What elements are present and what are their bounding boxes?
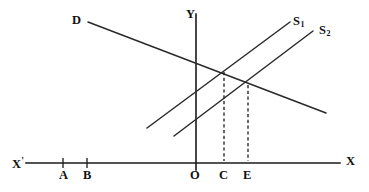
x-axis-label: X: [346, 155, 355, 168]
supply-curve-s2: [174, 31, 313, 136]
point-label-c: C: [219, 169, 228, 182]
point-label-b: B: [83, 169, 92, 182]
x-prime-mark: ': [21, 155, 24, 166]
demand-curve-d: [88, 22, 326, 113]
x-axis-negative-label: X': [12, 155, 24, 171]
supply-demand-diagram: D S1 S2 Y X X' A B O C E: [0, 0, 369, 192]
diagram-canvas: [0, 0, 369, 192]
demand-curve-label: D: [72, 14, 81, 27]
supply-curve-s1-label: S1: [293, 15, 304, 28]
supply-curve-s1: [147, 22, 290, 128]
point-label-a: A: [59, 169, 68, 182]
x-prime-base: X: [12, 157, 21, 171]
supply-s1-subscript: 1: [300, 20, 304, 29]
supply-curve-s2-label: S2: [319, 24, 330, 37]
point-label-o: O: [190, 169, 200, 182]
point-label-e: E: [243, 169, 252, 182]
y-axis-label: Y: [186, 8, 195, 21]
supply-s2-subscript: 2: [326, 29, 330, 38]
